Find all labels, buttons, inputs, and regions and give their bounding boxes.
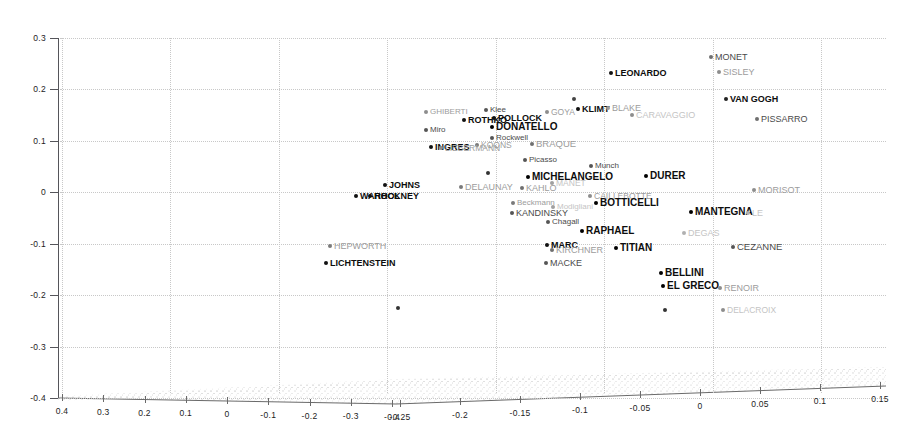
grid-line-horizontal: [60, 141, 886, 142]
scatter-point-label: Chagall: [552, 218, 579, 226]
grid-line-vertical: [279, 38, 280, 393]
scatter-point-label: LIEBERMANN: [445, 144, 500, 153]
x-axis-left-tick-label: 0.4: [56, 406, 69, 416]
scatter-point-label: KIRCHNER: [556, 246, 603, 255]
scatter-point[interactable]: [530, 142, 534, 146]
x-axis-right-tick-label: -0.25: [390, 412, 411, 422]
scatter-point-label: Picasso: [529, 156, 557, 164]
scatter-point-label: LE: [752, 209, 763, 218]
scatter-point[interactable]: [709, 55, 713, 59]
y-axis-tick-label: 0.3: [6, 33, 46, 43]
scatter-point-label: RENOIR: [724, 284, 759, 293]
scatter-point[interactable]: [663, 308, 667, 312]
x-axis-left-tick-mark: [310, 399, 311, 406]
scatter-point[interactable]: [324, 261, 328, 265]
grid-line-vertical: [62, 38, 63, 393]
scatter-point[interactable]: [546, 220, 550, 224]
scatter-point[interactable]: [589, 164, 593, 168]
scatter-point[interactable]: [523, 158, 527, 162]
scatter-point[interactable]: [459, 185, 463, 189]
scatter-point[interactable]: [606, 106, 610, 110]
scatter-point[interactable]: [746, 211, 750, 215]
scatter-point[interactable]: [689, 210, 693, 214]
scatter-point[interactable]: [580, 229, 584, 233]
scatter-point-label: DEGAS: [688, 229, 720, 238]
scatter-point[interactable]: [383, 183, 387, 187]
scatter-point[interactable]: [630, 113, 634, 117]
y-axis-tick-mark: [50, 244, 58, 245]
scatter-point[interactable]: [486, 171, 490, 175]
y-axis-line: [58, 38, 59, 398]
y-axis-tick-label: 0.1: [6, 136, 46, 146]
x-axis-right-tick-mark: [520, 396, 521, 403]
scatter-point-label: TITIAN: [620, 243, 652, 253]
scatter-point[interactable]: [545, 243, 549, 247]
y-axis-tick-label: 0.2: [6, 84, 46, 94]
y-axis-tick-mark: [50, 347, 58, 348]
scatter-point[interactable]: [545, 110, 549, 114]
scatter-point[interactable]: [396, 306, 400, 310]
scatter-point-label: GHIBERTI: [430, 108, 468, 116]
scatter-point-label: PISSARRO: [761, 115, 808, 124]
scatter-point[interactable]: [424, 128, 428, 132]
scatter-point-label: MORISOT: [758, 186, 800, 195]
scatter-point-label: CEZANNE: [737, 242, 782, 252]
x-axis-left-tick-mark: [145, 396, 146, 403]
scatter-point[interactable]: [520, 186, 524, 190]
scatter-point-label: Munch: [595, 162, 619, 170]
scatter-point[interactable]: [755, 117, 759, 121]
y-axis-tick-label: -0.2: [6, 290, 46, 300]
scatter-point[interactable]: [724, 97, 728, 101]
scatter-point[interactable]: [661, 284, 665, 288]
x-axis-right-tick-label: 0.1: [814, 396, 827, 406]
scatter-point[interactable]: [572, 97, 576, 101]
scatter-point[interactable]: [731, 245, 735, 249]
scatter-point[interactable]: [492, 116, 496, 120]
scatter-point[interactable]: [490, 125, 494, 129]
scatter-point[interactable]: [510, 211, 514, 215]
x-axis-left-tick-label: -0.3: [343, 411, 359, 421]
scatter-point[interactable]: [659, 271, 663, 275]
scatter-point-label: MANTEGNA: [695, 207, 753, 217]
grid-line-vertical: [604, 38, 605, 393]
scatter-point[interactable]: [526, 175, 530, 179]
scatter-point[interactable]: [354, 194, 358, 198]
x-axis-right-tick-mark: [460, 398, 461, 405]
x-axis-right-tick-mark: [640, 391, 641, 398]
scatter-point-label: DONATELLO: [496, 122, 557, 132]
scatter-point[interactable]: [551, 205, 555, 209]
scatter-point[interactable]: [644, 174, 648, 178]
scatter-point-label: BOTTICELLI: [600, 198, 659, 208]
scatter-point[interactable]: [550, 248, 554, 252]
scatter-point[interactable]: [588, 194, 592, 198]
scatter-point[interactable]: [752, 188, 756, 192]
scatter-point[interactable]: [462, 118, 466, 122]
x-axis-left-tick-mark: [227, 397, 228, 404]
scatter-point[interactable]: [484, 108, 488, 112]
scatter-point[interactable]: [718, 286, 722, 290]
scatter-point[interactable]: [424, 110, 428, 114]
grid-line-vertical: [496, 38, 497, 393]
y-axis-tick-label: -0.3: [6, 342, 46, 352]
scatter-point-label: LICHTENSTEIN: [330, 259, 396, 268]
scatter-point[interactable]: [721, 308, 725, 312]
y-axis-tick-mark: [50, 89, 58, 90]
scatter-point[interactable]: [439, 146, 443, 150]
scatter-point[interactable]: [609, 71, 613, 75]
y-axis-tick-mark: [50, 398, 58, 399]
scatter-point-label: MONET: [715, 53, 748, 62]
y-axis-tick-mark: [50, 38, 58, 39]
scatter-point[interactable]: [328, 244, 332, 248]
scatter-point-label: EL GRECO: [667, 281, 719, 291]
scatter-point-label: RAPHAEL: [586, 226, 634, 236]
scatter-point[interactable]: [682, 231, 686, 235]
scatter-point[interactable]: [717, 70, 721, 74]
x-axis-right-tick-label: -0.15: [510, 408, 531, 418]
scatter-point[interactable]: [544, 261, 548, 265]
scatter-point[interactable]: [576, 107, 580, 111]
scatter-point[interactable]: [594, 201, 598, 205]
plot-floor: [0, 0, 897, 448]
scatter-point[interactable]: [511, 201, 515, 205]
scatter-point[interactable]: [429, 145, 433, 149]
scatter-point[interactable]: [614, 246, 618, 250]
